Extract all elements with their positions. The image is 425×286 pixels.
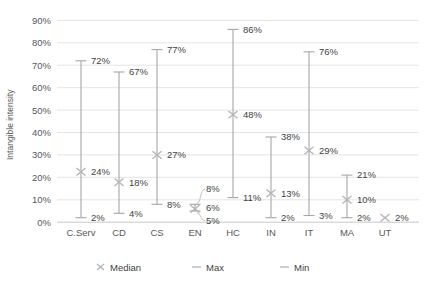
cat-label-cs: CS [150,227,163,238]
series-group-cs: 77% 27% 8% [152,44,187,210]
legend-item-median[interactable]: Median [97,262,141,273]
cat-label-it: IT [305,227,314,238]
legend-item-max[interactable]: Max [192,262,224,273]
label-in-min: 2% [281,212,295,223]
legend-label-max: Max [206,262,224,273]
label-ut-median: 2% [395,212,409,223]
label-cs-max: 77% [167,44,187,55]
series-group-ut: 2% [381,212,410,223]
label-hc-median: 48% [243,109,263,120]
cat-label-cserv: C.Serv [66,227,95,238]
leader-en-max [197,189,205,204]
cat-label-in: IN [266,227,276,238]
y-tick-60: 60% [32,82,52,93]
label-ma-median: 10% [357,194,377,205]
series-group-hc: 86% 48% 11% [228,24,263,203]
cat-label-en: EN [188,227,201,238]
x-category-labels: C.Serv CD CS EN HC IN IT MA UT [66,227,391,238]
chart-container: Intangible intensity 90% 80% 70% 60% 50%… [0,0,425,286]
legend-item-min[interactable]: Min [280,262,309,273]
label-en-median: 6% [206,202,220,213]
label-it-min: 3% [319,210,333,221]
cat-label-cd: CD [112,227,126,238]
y-tick-0: 0% [37,217,51,228]
y-axis-title-text: Intangible intensity [5,89,15,160]
label-cs-min: 8% [167,199,181,210]
legend-label-median: Median [110,262,141,273]
label-hc-min: 11% [243,192,262,203]
series-group-cd: 67% 18% 4% [114,66,149,219]
label-in-max: 38% [281,131,301,142]
y-tick-20: 20% [32,172,52,183]
label-cserv-min: 2% [91,212,105,223]
label-cd-max: 67% [129,66,149,77]
y-tick-labels: 90% 80% 70% 60% 50% 40% 30% 20% 10% 0% [32,15,52,228]
label-in-median: 13% [281,188,301,199]
series-group-ma: 21% 10% 2% [342,169,377,223]
y-tick-70: 70% [32,60,52,71]
label-ma-min: 2% [357,212,371,223]
label-cs-median: 27% [167,149,187,160]
y-tick-30: 30% [32,149,52,160]
chart-legend: Median Max Min [97,262,309,273]
y-tick-10: 10% [32,194,52,205]
y-tick-40: 40% [32,127,52,138]
label-en-min: 5% [206,215,220,226]
label-hc-max: 86% [243,24,263,35]
label-cd-min: 4% [129,208,143,219]
legend-label-min: Min [294,262,309,273]
leader-en-min [197,213,205,222]
median-marker-ut [381,214,390,221]
y-tick-80: 80% [32,37,52,48]
series-group-cserv: 72% 24% 2% [76,55,111,223]
label-it-max: 76% [319,46,339,57]
y-tick-50: 50% [32,105,52,116]
label-ma-max: 21% [357,169,377,180]
cat-label-hc: HC [226,227,240,238]
cat-label-ut: UT [379,227,392,238]
label-cserv-max: 72% [91,55,111,66]
series-group-en: 8% 6% 5% [190,183,221,226]
label-en-max: 8% [206,183,220,194]
y-axis-title: Intangible intensity [5,89,15,160]
label-cserv-median: 24% [91,166,111,177]
label-it-median: 29% [319,145,339,156]
y-tick-90: 90% [32,15,52,26]
cat-label-ma: MA [340,227,355,238]
chart-svg: Intangible intensity 90% 80% 70% 60% 50%… [0,0,425,286]
label-cd-median: 18% [129,177,149,188]
series-group-it: 76% 29% 3% [304,46,339,221]
